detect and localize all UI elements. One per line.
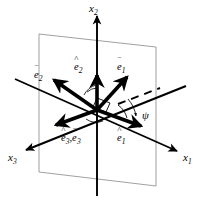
bar-accent-icon: ‾ bbox=[118, 57, 121, 66]
e1-bar-arrow bbox=[97, 77, 127, 110]
axis-label-x2-sub: 2 bbox=[94, 8, 98, 17]
bar-accent-icon: ‾ bbox=[73, 128, 76, 137]
hat-accent-icon: ^ bbox=[61, 126, 65, 135]
axis-label-x2: x2 bbox=[89, 3, 98, 14]
vector-label-e1-hat-sub: 1 bbox=[122, 137, 126, 146]
diagram-canvas bbox=[0, 0, 202, 202]
vector-label-e1-hat: ^e1 bbox=[117, 133, 125, 144]
psi-angle-label: ψ bbox=[142, 110, 149, 121]
axis-label-x3: x3 bbox=[8, 152, 17, 163]
e1-bar-accented-symbol: ‾e bbox=[117, 62, 122, 73]
vector-label-e2-hat: ^e2 bbox=[74, 62, 82, 73]
e1-hat-accented-symbol: ^e bbox=[117, 133, 122, 144]
hat-accent-icon: ^ bbox=[117, 126, 121, 135]
vector-label-e2-hat-sub: 2 bbox=[79, 66, 83, 75]
vector-label-e3-pair: ^e3,‾e3 bbox=[61, 133, 80, 144]
axis-label-x1: x1 bbox=[183, 152, 192, 163]
vector-label-e2-bar: ‾e2 bbox=[34, 70, 42, 81]
axis-label-x3-sub: 3 bbox=[13, 157, 17, 166]
psi-angle-arc bbox=[118, 99, 136, 118]
vector-label-e3-bar-sub: 3 bbox=[77, 137, 81, 146]
hat-accent-icon: ^ bbox=[74, 55, 78, 64]
e2-hat-accented-symbol: ^e bbox=[74, 62, 79, 73]
axis-label-x1-sub: 1 bbox=[188, 157, 192, 166]
vector-label-e1-bar: ‾e1 bbox=[117, 62, 125, 73]
e3-hat-accented-symbol: ^e bbox=[61, 133, 66, 144]
e3-pair-arrow bbox=[56, 110, 97, 125]
x3-axis-line bbox=[26, 86, 186, 150]
figure-root: x2 x1 x3 ^e2 ‾e1 ‾e2 ^e1 ^e3,‾e3 ψ bbox=[0, 0, 202, 202]
dashed-reference-line bbox=[118, 88, 160, 104]
vector-label-e3-hat-sub: 3 bbox=[66, 137, 70, 146]
e2-bar-accented-symbol: ‾e bbox=[34, 70, 39, 81]
bar-accent-icon: ‾ bbox=[35, 65, 38, 74]
vector-label-e2-bar-sub: 2 bbox=[39, 74, 43, 83]
vector-label-e1-bar-sub: 1 bbox=[122, 66, 126, 75]
